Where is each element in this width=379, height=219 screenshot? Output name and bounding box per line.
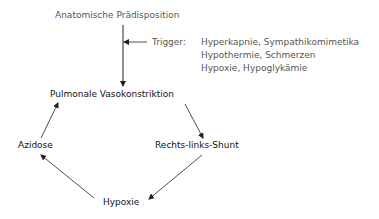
- node-pulmonale-vasokonstriktion: Pulmonale Vasokonstriktion: [50, 89, 174, 100]
- trigger-item-3: Hypoxie, Hypoglykämie: [201, 63, 307, 74]
- arrow-azidose-to-vasokonstriktion: [41, 103, 58, 138]
- node-azidose: Azidose: [18, 140, 53, 151]
- arrow-layer: [0, 0, 379, 219]
- trigger-label: Trigger:: [152, 37, 186, 48]
- arrow-hypoxie-to-azidose: [41, 155, 94, 198]
- trigger-item-1: Hyperkapnie, Sympathikomimetika: [201, 37, 359, 48]
- trigger-item-2: Hypothermie, Schmerzen: [201, 50, 316, 61]
- node-anatomische-praedisposition: Anatomische Prädisposition: [55, 10, 179, 21]
- node-rechts-links-shunt: Rechts-links-Shunt: [155, 140, 239, 151]
- arrow-vasokonstriktion-to-shunt: [185, 104, 203, 138]
- node-hypoxie: Hypoxie: [103, 197, 139, 208]
- arrow-shunt-to-hypoxie: [149, 155, 202, 199]
